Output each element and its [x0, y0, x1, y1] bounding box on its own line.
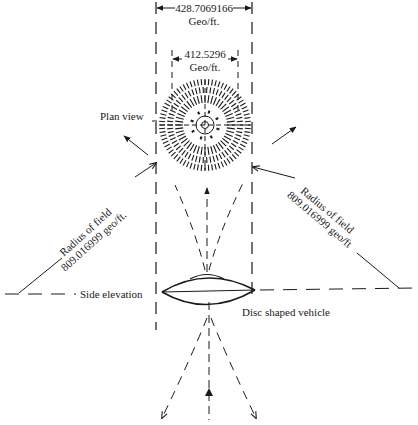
- field-hatch-mark: [236, 131, 242, 132]
- field-hatch-mark: [197, 96, 199, 104]
- field-hatch-mark: [244, 135, 250, 136]
- field-hatch-mark: [210, 87, 211, 93]
- field-hatch-mark: [185, 93, 188, 98]
- field-hatch-mark: [174, 143, 179, 146]
- field-hatch-mark: [229, 146, 234, 150]
- field-hatch-mark: [226, 131, 234, 133]
- hub-tick-mark: [216, 118, 219, 119]
- field-hatch-mark: [177, 114, 184, 117]
- field-hatch-mark: [170, 138, 176, 140]
- field-hatch-mark: [237, 128, 243, 129]
- field-hatch-mark: [199, 157, 200, 163]
- hub-tick-mark: [216, 129, 219, 130]
- field-hatch-mark: [238, 147, 243, 150]
- field-hatch-mark: [234, 110, 240, 112]
- field-hatch-mark: [226, 117, 234, 119]
- hub-tick-mark: [211, 136, 212, 139]
- field-hatch-mark: [225, 133, 232, 136]
- field-hatch-mark: [171, 152, 175, 156]
- right-baseline: [260, 288, 416, 290]
- field-hatch-mark: [166, 147, 171, 150]
- plan-view-label: Plan view: [100, 110, 144, 122]
- field-hatch-mark: [197, 146, 199, 154]
- right-out-arrow: [272, 127, 296, 144]
- field-hatch-mark: [169, 135, 175, 137]
- field-hatch-mark: [177, 157, 181, 162]
- field-hatch-mark: [169, 150, 174, 154]
- field-hatch-mark: [215, 164, 216, 170]
- field-hatch-mark: [218, 163, 220, 169]
- field-hatch-mark: [244, 114, 250, 115]
- field-hatch-mark: [225, 95, 229, 100]
- lower-field-lines: [162, 302, 256, 420]
- field-hatch-mark: [231, 143, 236, 146]
- field-hatch-mark: [160, 132, 166, 133]
- field-hatch-mark: [230, 157, 234, 162]
- field-hatch-mark: [222, 107, 228, 112]
- field-hatch-mark: [240, 103, 245, 106]
- field-hatch-mark: [221, 162, 223, 167]
- field-hatch-mark: [166, 100, 171, 103]
- field-hatch-mark: [160, 135, 166, 136]
- inner-dim-unit: Geo/ft.: [190, 61, 221, 73]
- field-hatch-mark: [179, 148, 183, 152]
- disc-vehicle-diagram: 428.7069166 Geo/ft. 412.5296 Geo/ft. Pla…: [0, 0, 418, 425]
- field-hatch-mark: [177, 89, 181, 94]
- field-hatch-mark: [219, 154, 222, 159]
- field-hatch-mark: [179, 136, 186, 140]
- field-hatch-mark: [174, 103, 179, 106]
- field-hatch-mark: [222, 93, 225, 98]
- field-hatch-mark: [187, 83, 189, 88]
- field-hatch-mark: [240, 144, 245, 147]
- field-hatch-mark: [187, 142, 192, 148]
- field-hatch-mark: [216, 155, 218, 161]
- field-hatch-mark: [179, 97, 183, 101]
- outer-dim-value: 428.7069166: [175, 2, 233, 14]
- field-hatch-mark: [244, 132, 250, 133]
- field-hatch-mark: [242, 107, 247, 109]
- field-hatch-mark: [184, 104, 190, 110]
- field-hatch-mark: [243, 138, 249, 140]
- field-hatch-mark: [187, 101, 192, 107]
- field-hatch-mark: [232, 154, 236, 158]
- field-hatch-mark: [227, 97, 231, 101]
- left-radius-line-lower: [19, 258, 62, 293]
- field-hatch-mark: [182, 95, 186, 100]
- field-hatch-mark: [177, 133, 184, 136]
- field-hatch-mark: [216, 89, 218, 95]
- field-hatch-mark: [224, 85, 227, 90]
- field-hatch-mark: [218, 142, 223, 148]
- field-hatch-mark: [216, 144, 220, 151]
- field-hatch-mark: [190, 163, 192, 169]
- field-hatch-mark: [221, 141, 227, 147]
- field-hatch-mark: [201, 95, 202, 103]
- field-hatch-mark: [188, 154, 191, 159]
- field-hatch-mark: [201, 147, 202, 155]
- field-hatch-mark: [213, 156, 215, 162]
- field-hatch-mark: [183, 160, 186, 165]
- field-hatch-mark: [180, 86, 183, 91]
- field-hatch-mark: [233, 141, 238, 144]
- field-hatch-mark: [233, 107, 238, 110]
- outer-dim-unit: Geo/ft.: [189, 15, 220, 27]
- field-hatch-mark: [237, 97, 242, 101]
- field-hatch-mark: [160, 114, 166, 115]
- field-hatch-mark: [194, 80, 195, 86]
- field-hatch-mark: [222, 152, 225, 157]
- field-hatch-mark: [174, 154, 178, 158]
- field-hatch-mark: [230, 89, 234, 94]
- field-hatch-mark: [227, 86, 230, 91]
- field-hatch-mark: [227, 128, 235, 129]
- field-hatch-mark: [194, 97, 197, 104]
- field-hatch-mark: [224, 110, 231, 114]
- hub-tick-mark: [201, 136, 202, 139]
- field-hatch-mark: [227, 148, 231, 152]
- right-radius-line-upper: [253, 167, 295, 178]
- field-hatch-mark: [176, 131, 184, 133]
- field-hatch-mark: [218, 81, 220, 87]
- field-hatch-mark: [195, 156, 197, 162]
- left-radius-line-upper: [135, 163, 156, 177]
- field-hatch-mark: [229, 100, 234, 104]
- field-hatch-mark: [211, 146, 213, 154]
- field-hatch-mark: [225, 150, 229, 155]
